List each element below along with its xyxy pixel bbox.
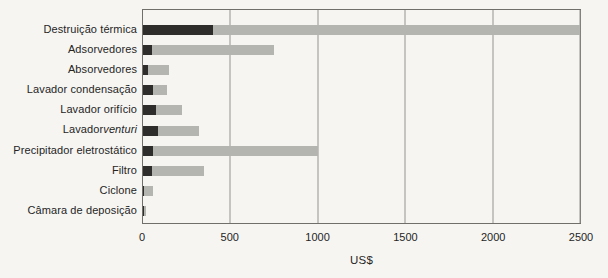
x-tick-label: 1000 (305, 231, 329, 243)
bar-segment-light (148, 65, 169, 75)
bar-segment-light (156, 105, 182, 115)
bar-segment-light (152, 166, 204, 176)
bar-segment-dark (143, 126, 158, 136)
bar-segment-light (153, 85, 166, 95)
bar-segment-dark (143, 166, 152, 176)
category-label: Absorvedores (0, 59, 137, 79)
category-label: Lavador orifício (0, 99, 137, 119)
category-label: Ciclone (0, 180, 137, 200)
bar-row (143, 45, 580, 55)
bar-segment-light (152, 45, 274, 55)
x-axis-ticks: 05001000150020002500 (142, 231, 581, 244)
category-label: Precipitador eletrostático (0, 140, 137, 160)
bar-row (143, 85, 580, 95)
page-background: { "colors": { "background": "#f6f5f2", "… (0, 0, 608, 278)
bar-segment-dark (143, 25, 213, 35)
bar-row (143, 206, 580, 216)
bar-segment-dark (143, 146, 153, 156)
bar-row (143, 166, 580, 176)
category-label-italic-part: venturi (103, 123, 137, 135)
category-axis: Destruição térmicaAdsorvedoresAbsorvedor… (0, 9, 137, 224)
category-label: Câmara de deposição (0, 200, 137, 220)
bar-segment-light (213, 25, 580, 35)
category-label: Lavador condensação (0, 79, 137, 99)
bar-row (143, 105, 580, 115)
x-tick-label: 0 (139, 231, 145, 243)
category-label: Filtro (0, 160, 137, 180)
bar-segment-light (158, 126, 199, 136)
bar-segment-dark (143, 105, 156, 115)
bar-row (143, 126, 580, 136)
category-label: Lavador venturi (0, 119, 137, 139)
bar-segment-light (144, 206, 147, 216)
x-tick-label: 2500 (569, 231, 593, 243)
bar-row (143, 65, 580, 75)
bar-segment-dark (143, 45, 152, 55)
bar-segment-light (153, 146, 318, 156)
plot-area (142, 9, 581, 224)
bar-row (143, 25, 580, 35)
category-label: Adsorvedores (0, 39, 137, 59)
stacked-bar-chart-figure: Destruição térmicaAdsorvedoresAbsorvedor… (0, 0, 608, 278)
x-axis-title: US$ (142, 254, 581, 266)
x-tick-label: 1500 (393, 231, 417, 243)
bar-row (143, 146, 580, 156)
bar-segment-dark (143, 85, 153, 95)
bar-row (143, 186, 580, 196)
x-tick-label: 500 (221, 231, 239, 243)
x-tick-label: 2000 (481, 231, 505, 243)
bar-segment-light (144, 186, 154, 196)
category-label: Destruição térmica (0, 19, 137, 39)
